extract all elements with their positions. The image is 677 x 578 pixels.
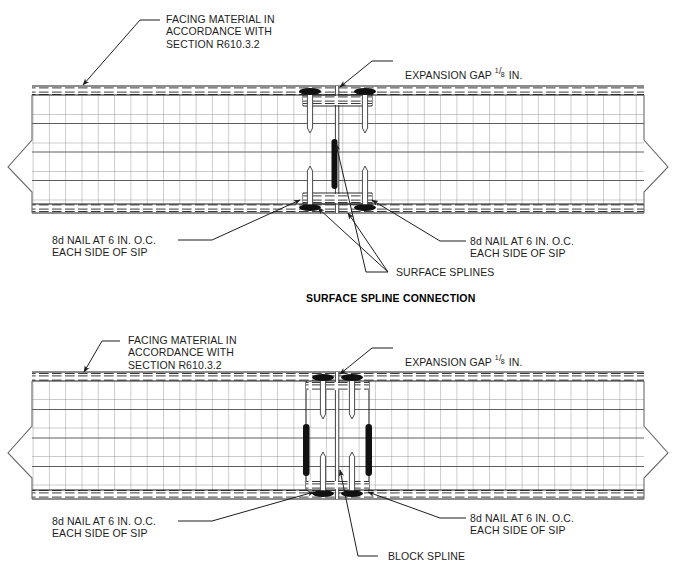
label-nail-left-bottom: 8d NAIL AT 6 IN. O.C. EACH SIDE OF SIP bbox=[52, 515, 156, 540]
label-facing-material-bottom: FACING MATERIAL IN ACCORDANCE WITH SECTI… bbox=[128, 334, 237, 371]
block-spline-band-lower bbox=[306, 481, 369, 489]
expansion-gap-text-top: EXPANSION GAP bbox=[405, 69, 495, 81]
label-nail-right-bottom: 8d NAIL AT 6 IN. O.C. EACH SIDE OF SIP bbox=[470, 512, 574, 537]
fraction-one-eighth-top: 1/8 bbox=[495, 68, 506, 79]
label-surface-splines: SURFACE SPLINES bbox=[396, 266, 494, 278]
expansion-gap-unit-top: IN. bbox=[506, 69, 523, 81]
leader-facing-bottom bbox=[84, 341, 120, 372]
expansion-gap-unit-bottom: IN. bbox=[506, 356, 523, 368]
label-nail-left-top: 8d NAIL AT 6 IN. O.C. EACH SIDE OF SIP bbox=[52, 234, 156, 259]
label-block-spline: BLOCK SPLINE bbox=[388, 550, 465, 562]
leader-expansion-gap-bottom bbox=[340, 348, 393, 374]
label-expansion-gap-bottom: EXPANSION GAP 1/8 IN. bbox=[399, 343, 523, 369]
break-symbol-right-bottom bbox=[644, 381, 668, 499]
label-facing-material-top: FACING MATERIAL IN ACCORDANCE WITH SECTI… bbox=[166, 13, 275, 50]
break-symbol-right-top bbox=[644, 95, 668, 213]
leader-splines-c bbox=[348, 213, 388, 272]
block-spline-bar-right bbox=[366, 424, 373, 476]
leader-expansion-gap-top bbox=[340, 61, 393, 87]
expansion-gap-bottom bbox=[335, 372, 338, 499]
break-symbol-left-top bbox=[8, 95, 32, 213]
block-spline-band-upper bbox=[306, 382, 369, 390]
drawing-sheet: FACING MATERIAL IN ACCORDANCE WITH SECTI… bbox=[0, 0, 677, 578]
detail-title-surface-spline-connection: SURFACE SPLINE CONNECTION bbox=[306, 292, 476, 304]
surface-spline-band-lower bbox=[303, 194, 372, 203]
label-nail-right-top: 8d NAIL AT 6 IN. O.C. EACH SIDE OF SIP bbox=[470, 235, 574, 260]
block-spline-bar-left bbox=[303, 424, 310, 476]
surface-spline-band-upper bbox=[303, 96, 372, 105]
expansion-gap-text-bottom: EXPANSION GAP bbox=[405, 356, 495, 368]
break-symbol-left-bottom bbox=[8, 381, 32, 499]
leader-facing-top bbox=[83, 20, 160, 85]
technical-drawing-canvas bbox=[0, 0, 677, 578]
label-expansion-gap-top: EXPANSION GAP 1/8 IN. bbox=[399, 56, 523, 82]
fraction-one-eighth-bottom: 1/8 bbox=[495, 355, 506, 366]
